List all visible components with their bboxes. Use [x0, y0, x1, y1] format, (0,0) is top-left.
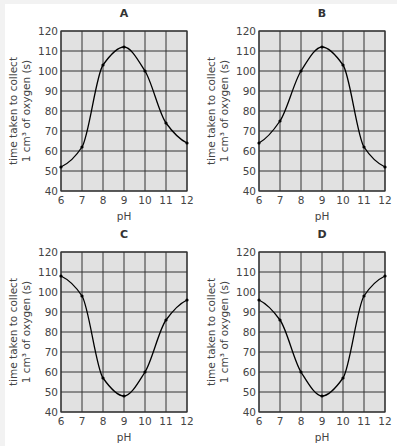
data-point: [320, 394, 323, 397]
x-tick-label: 9: [319, 194, 326, 206]
chart-title: B: [318, 7, 326, 20]
y-tick-label: 110: [38, 45, 58, 57]
y-tick-label: 60: [45, 366, 58, 378]
y-axis-label: time taken to collect1 cm³ of oxygen (s): [7, 278, 32, 386]
y-tick-label: 40: [243, 185, 256, 197]
x-tick-label: 7: [79, 415, 86, 427]
y-tick-label: 110: [236, 45, 256, 57]
y-tick-label: 40: [45, 406, 58, 418]
chart-title: A: [120, 7, 129, 20]
chart-c: C4050607080901001101206789101112pHtime t…: [0, 221, 200, 446]
x-tick-label: 10: [336, 415, 349, 427]
y-tick-label: 60: [243, 366, 256, 378]
data-point: [164, 121, 167, 124]
data-point: [257, 298, 260, 301]
y-tick-label: 90: [45, 85, 58, 97]
y-tick-label: 100: [236, 286, 256, 298]
data-point: [185, 298, 188, 301]
y-tick-label: 80: [45, 326, 58, 338]
x-tick-label: 11: [159, 415, 172, 427]
y-tick-label: 70: [45, 346, 58, 358]
y-tick-label: 70: [45, 125, 58, 137]
data-point: [80, 145, 83, 148]
y-tick-label: 40: [45, 185, 58, 197]
y-tick-label: 90: [243, 85, 256, 97]
y-tick-label: 90: [45, 306, 58, 318]
x-tick-label: 8: [100, 194, 107, 206]
x-tick-label: 6: [256, 194, 263, 206]
data-point: [341, 376, 344, 379]
y-tick-label: 50: [243, 386, 256, 398]
x-tick-label: 9: [319, 415, 326, 427]
y-tick-label: 60: [45, 145, 58, 157]
x-tick-label: 9: [121, 415, 128, 427]
x-axis-label: pH: [315, 431, 330, 443]
data-point: [80, 294, 83, 297]
x-tick-label: 6: [58, 415, 65, 427]
data-point: [101, 376, 104, 379]
y-tick-label: 50: [243, 165, 256, 177]
y-axis-label: time taken to collect1 cm³ of oxygen (s): [205, 57, 230, 165]
y-tick-label: 110: [236, 266, 256, 278]
data-point: [122, 45, 125, 48]
x-tick-label: 11: [357, 415, 370, 427]
y-tick-label: 50: [45, 165, 58, 177]
y-tick-label: 60: [243, 145, 256, 157]
data-point: [185, 141, 188, 144]
data-point: [299, 370, 302, 373]
x-tick-label: 12: [378, 194, 391, 206]
x-tick-label: 12: [180, 415, 193, 427]
data-point: [320, 45, 323, 48]
y-tick-label: 80: [45, 105, 58, 117]
data-point: [59, 165, 62, 168]
x-tick-label: 12: [378, 415, 391, 427]
x-tick-label: 7: [277, 415, 284, 427]
chart-d: D4050607080901001101206789101112pHtime t…: [198, 221, 397, 446]
x-tick-label: 8: [100, 415, 107, 427]
y-tick-label: 100: [38, 286, 58, 298]
y-tick-label: 70: [243, 346, 256, 358]
y-tick-label: 40: [243, 406, 256, 418]
y-tick-label: 90: [243, 306, 256, 318]
y-tick-label: 100: [236, 65, 256, 77]
y-axis-label: time taken to collect1 cm³ of oxygen (s): [7, 57, 32, 165]
y-tick-label: 80: [243, 105, 256, 117]
data-point: [362, 145, 365, 148]
x-tick-label: 12: [180, 194, 193, 206]
x-tick-label: 9: [121, 194, 128, 206]
y-tick-label: 80: [243, 326, 256, 338]
chart-title: C: [120, 228, 128, 241]
chart-a: A4050607080901001101206789101112pHtime t…: [0, 0, 200, 222]
data-point: [341, 63, 344, 66]
x-tick-label: 10: [138, 194, 151, 206]
y-tick-label: 110: [38, 266, 58, 278]
x-tick-label: 6: [256, 415, 263, 427]
x-tick-label: 10: [138, 415, 151, 427]
data-point: [101, 63, 104, 66]
data-point: [257, 141, 260, 144]
x-tick-label: 11: [357, 194, 370, 206]
data-point: [164, 318, 167, 321]
x-tick-label: 7: [79, 194, 86, 206]
y-tick-label: 50: [45, 386, 58, 398]
x-tick-label: 6: [58, 194, 65, 206]
x-axis-label: pH: [117, 431, 132, 443]
data-point: [143, 69, 146, 72]
data-point: [122, 394, 125, 397]
data-point: [59, 274, 62, 277]
y-tick-label: 120: [236, 25, 256, 37]
x-tick-label: 8: [298, 415, 305, 427]
y-tick-label: 120: [38, 25, 58, 37]
data-point: [362, 294, 365, 297]
data-point: [383, 274, 386, 277]
data-point: [278, 119, 281, 122]
data-point: [299, 69, 302, 72]
data-point: [278, 318, 281, 321]
y-tick-label: 120: [236, 246, 256, 258]
data-point: [383, 165, 386, 168]
x-tick-label: 7: [277, 194, 284, 206]
y-tick-label: 100: [38, 65, 58, 77]
y-tick-label: 70: [243, 125, 256, 137]
x-tick-label: 10: [336, 194, 349, 206]
x-tick-label: 11: [159, 194, 172, 206]
